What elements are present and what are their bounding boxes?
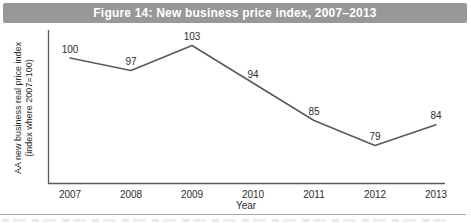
data-label-2007: 100 — [62, 44, 79, 55]
cropped-caption-remnant — [2, 219, 448, 222]
x-tick-2007: 2007 — [59, 189, 82, 200]
figure-panel: Figure 14: New business price index, 200… — [0, 0, 471, 223]
line-chart: 1009710394857984200720082009201020112012… — [0, 0, 471, 223]
data-label-2012: 79 — [369, 131, 381, 142]
data-label-2008: 97 — [125, 56, 137, 67]
x-tick-2012: 2012 — [364, 189, 387, 200]
x-axis-title: Year — [236, 200, 257, 211]
x-tick-2013: 2013 — [425, 189, 448, 200]
data-label-2010: 94 — [247, 69, 259, 80]
data-label-2009: 103 — [184, 31, 201, 42]
x-tick-2009: 2009 — [181, 189, 204, 200]
data-label-2013: 84 — [430, 110, 442, 121]
x-tick-2010: 2010 — [242, 189, 265, 200]
data-label-2011: 85 — [308, 106, 320, 117]
x-tick-2008: 2008 — [120, 189, 143, 200]
x-tick-2011: 2011 — [303, 189, 325, 200]
bottom-divider-line — [0, 214, 466, 215]
